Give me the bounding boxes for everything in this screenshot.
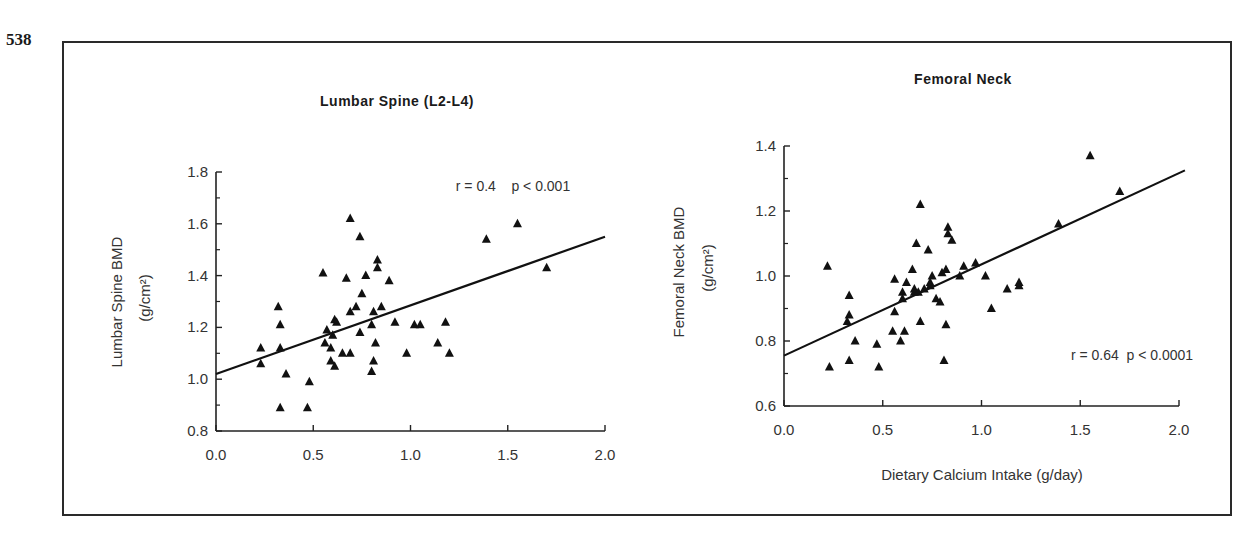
triangle-marker-icon	[845, 356, 854, 365]
triangle-marker-icon	[433, 338, 442, 347]
y-axis-unit: (g/cm²)	[699, 244, 716, 292]
triangle-marker-icon	[916, 200, 925, 209]
x-tick-label: 0.0	[206, 446, 227, 463]
triangle-marker-icon	[322, 325, 331, 334]
x-tick-label: 1.0	[400, 446, 421, 463]
triangle-marker-icon	[1115, 187, 1124, 196]
triangle-marker-icon	[377, 302, 386, 311]
triangle-marker-icon	[276, 403, 285, 412]
triangle-marker-icon	[851, 336, 860, 345]
x-axis-label: Dietary Calcium Intake (g/day)	[881, 466, 1083, 483]
y-tick-label: 0.8	[755, 332, 776, 349]
triangle-marker-icon	[367, 366, 376, 375]
triangle-marker-icon	[941, 265, 950, 274]
x-tick-label: 0.5	[303, 446, 324, 463]
triangle-marker-icon	[890, 307, 899, 316]
triangle-marker-icon	[928, 271, 937, 280]
triangle-marker-icon	[981, 271, 990, 280]
triangle-marker-icon	[845, 291, 854, 300]
triangle-marker-icon	[371, 338, 380, 347]
triangle-marker-icon	[357, 289, 366, 298]
x-tick-label: 2.0	[595, 446, 616, 463]
triangle-marker-icon	[971, 258, 980, 267]
y-tick-label: 1.0	[755, 267, 776, 284]
chart-title: Lumbar Spine (L2-L4)	[320, 93, 474, 109]
triangle-marker-icon	[303, 403, 312, 412]
x-tick-label: 2.0	[1169, 421, 1190, 438]
triangle-marker-icon	[355, 232, 364, 241]
triangle-marker-icon	[373, 263, 382, 272]
y-tick-label: 1.2	[187, 318, 208, 335]
chart-title: Femoral Neck	[914, 71, 1012, 87]
triangle-marker-icon	[1054, 219, 1063, 228]
triangle-marker-icon	[346, 348, 355, 357]
triangle-marker-icon	[888, 326, 897, 335]
femoral-neck-chart: Femoral Neck0.60.81.01.21.40.00.51.01.52…	[670, 71, 1193, 483]
triangle-marker-icon	[318, 268, 327, 277]
triangle-marker-icon	[941, 320, 950, 329]
y-axis-label: Femoral Neck BMD	[670, 206, 687, 337]
triangle-marker-icon	[369, 307, 378, 316]
triangle-marker-icon	[987, 304, 996, 313]
triangle-marker-icon	[338, 348, 347, 357]
y-tick-label: 1.2	[755, 202, 776, 219]
triangle-marker-icon	[845, 310, 854, 319]
triangle-marker-icon	[482, 234, 491, 243]
triangle-marker-icon	[346, 214, 355, 223]
triangle-marker-icon	[896, 336, 905, 345]
x-tick-label: 0.0	[774, 421, 795, 438]
triangle-marker-icon	[912, 239, 921, 248]
triangle-marker-icon	[900, 326, 909, 335]
triangle-marker-icon	[320, 338, 329, 347]
y-axis-label: Lumbar Spine BMD	[108, 236, 125, 367]
triangle-marker-icon	[352, 302, 361, 311]
triangle-marker-icon	[390, 317, 399, 326]
triangle-marker-icon	[276, 343, 285, 352]
triangle-marker-icon	[908, 265, 917, 274]
triangle-marker-icon	[916, 317, 925, 326]
regression-line	[784, 170, 1185, 355]
triangle-marker-icon	[542, 263, 551, 272]
y-tick-label: 1.4	[755, 137, 776, 154]
correlation-annotation: r = 0.4 p < 0.001	[456, 178, 571, 194]
figure-charts: Lumbar Spine (L2-L4)0.81.01.21.41.61.80.…	[0, 0, 1256, 547]
triangle-marker-icon	[825, 362, 834, 371]
triangle-marker-icon	[939, 356, 948, 365]
triangle-marker-icon	[441, 317, 450, 326]
y-tick-label: 1.4	[187, 267, 208, 284]
triangle-marker-icon	[1003, 284, 1012, 293]
triangle-marker-icon	[369, 356, 378, 365]
triangle-marker-icon	[355, 328, 364, 337]
triangle-marker-icon	[373, 255, 382, 264]
y-tick-label: 1.0	[187, 370, 208, 387]
triangle-marker-icon	[305, 377, 314, 386]
triangle-marker-icon	[282, 369, 291, 378]
triangle-marker-icon	[1015, 278, 1024, 287]
triangle-marker-icon	[445, 348, 454, 357]
y-tick-label: 1.6	[187, 215, 208, 232]
triangle-marker-icon	[256, 343, 265, 352]
triangle-marker-icon	[276, 320, 285, 329]
y-tick-label: 0.6	[755, 397, 776, 414]
triangle-marker-icon	[959, 261, 968, 270]
triangle-marker-icon	[385, 276, 394, 285]
x-tick-label: 1.5	[497, 446, 518, 463]
triangle-marker-icon	[1086, 151, 1095, 160]
triangle-marker-icon	[342, 273, 351, 282]
y-tick-label: 0.8	[187, 422, 208, 439]
triangle-marker-icon	[902, 278, 911, 287]
x-tick-label: 1.5	[1070, 421, 1091, 438]
triangle-marker-icon	[416, 320, 425, 329]
x-tick-label: 1.0	[971, 421, 992, 438]
y-axis-unit: (g/cm²)	[136, 274, 153, 322]
regression-line	[216, 237, 605, 374]
correlation-annotation: r = 0.64 p < 0.0001	[1071, 347, 1193, 363]
x-tick-label: 0.5	[872, 421, 893, 438]
triangle-marker-icon	[890, 274, 899, 283]
triangle-marker-icon	[924, 245, 933, 254]
y-tick-label: 1.8	[187, 163, 208, 180]
triangle-marker-icon	[874, 362, 883, 371]
triangle-marker-icon	[823, 261, 832, 270]
triangle-marker-icon	[361, 271, 370, 280]
lumbar-spine-chart: Lumbar Spine (L2-L4)0.81.01.21.41.61.80.…	[108, 93, 615, 463]
